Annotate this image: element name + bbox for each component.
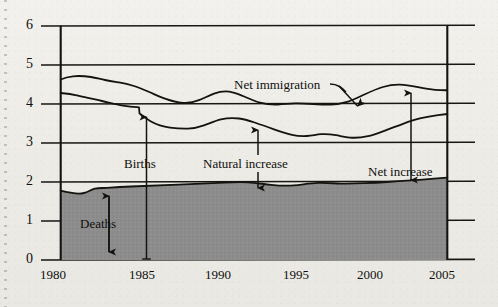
- annotation-net-increase: Net increase: [368, 165, 433, 178]
- y-tick-label-1: 1: [26, 213, 33, 227]
- y-tick-label-6: 6: [26, 18, 33, 32]
- annotation-deaths: Deaths: [80, 217, 116, 230]
- deaths-area: [61, 178, 448, 260]
- y-tick-label-3: 3: [26, 135, 33, 149]
- y-tick-label-0: 0: [26, 252, 33, 266]
- y-tick-label-5: 5: [26, 57, 33, 71]
- y-tick-label-2: 2: [26, 174, 33, 188]
- annotation-natural-increase: Natural increase: [203, 157, 288, 170]
- population-components-chart: 6 5 4 3 2 1 0 1980 1985 1990 1995 2000 2…: [0, 0, 498, 307]
- y-tick-label-4: 4: [26, 96, 33, 110]
- annotation-births: Births: [124, 157, 156, 170]
- x-tick-label-2000: 2000: [357, 268, 383, 281]
- x-tick-label-1985: 1985: [129, 268, 155, 281]
- x-tick-label-1995: 1995: [283, 268, 309, 281]
- x-tick-label-1990: 1990: [205, 268, 231, 281]
- chart-svg: [0, 0, 498, 307]
- annotation-net-immigration: Net immigration: [234, 78, 320, 91]
- x-tick-label-1980: 1980: [40, 268, 66, 281]
- x-tick-label-2005: 2005: [429, 268, 455, 281]
